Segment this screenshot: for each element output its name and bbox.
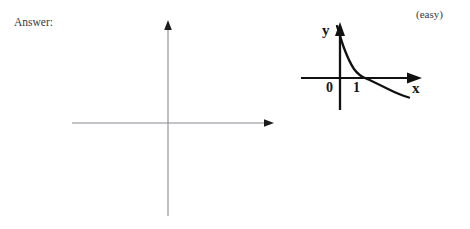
y-axis-label: y [322,22,330,38]
blank-y-axis-arrow-icon [164,20,172,30]
x-axis-label: x [412,80,420,96]
blank-x-axis [72,119,274,127]
worksheet-page: Answer: (easy) [0,0,470,229]
answer-label: Answer: [14,17,53,29]
blank-answer-axes [60,10,285,225]
graph-x-axis [301,73,422,84]
reference-graph-figure: y x 0 1 [296,18,430,118]
blank-y-axis [164,20,172,216]
x-tick-label-0: 0 [326,80,333,95]
blank-x-axis-arrow-icon [264,119,274,127]
curve-neg-log [337,26,409,98]
x-tick-label-1: 1 [353,80,360,95]
